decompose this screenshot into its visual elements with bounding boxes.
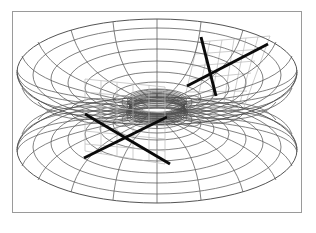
- upper-sheet-mesh: [17, 19, 297, 128]
- wormhole-surface-svg: [0, 0, 316, 233]
- figure-root: Wormhole embedding diagram Two flared fu…: [0, 0, 316, 233]
- wormhole-diagram-canvas: [0, 0, 316, 233]
